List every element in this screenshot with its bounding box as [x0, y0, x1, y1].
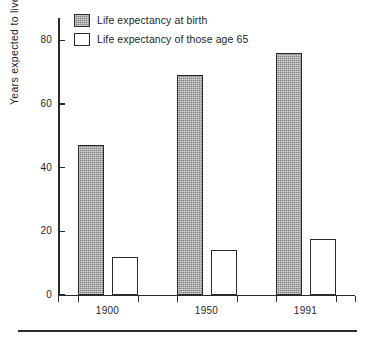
- y-axis-tick-label-0: 0: [46, 290, 52, 300]
- chart-figure: Life expectancy at birth Life expectancy…: [0, 0, 371, 342]
- x-axis-tick-label-1991: 1991: [276, 305, 336, 316]
- bar-1900-series-0: [78, 145, 104, 295]
- x-axis-tick-1900-0: [78, 296, 79, 302]
- y-axis-tick-label-20: 20: [40, 226, 52, 236]
- chart-bars: [58, 18, 355, 295]
- bar-1950-series-0: [177, 75, 203, 295]
- x-axis-edge-tick-1: [355, 296, 356, 302]
- x-axis-tick-1900-1: [138, 296, 139, 302]
- x-axis-tick-label-1900: 1900: [78, 305, 138, 316]
- bottom-rule-divider: [18, 330, 357, 332]
- bar-1991-series-0: [276, 53, 302, 295]
- y-axis-tick-label-80: 80: [40, 35, 52, 45]
- x-axis-tick-1950-1: [237, 296, 238, 302]
- x-axis-tick-1950-0: [177, 296, 178, 302]
- x-axis-tick-1991-1: [336, 296, 337, 302]
- x-axis-edge-tick-0: [58, 296, 59, 302]
- x-axis-tick-1991-0: [276, 296, 277, 302]
- y-axis-tick-label-40: 40: [40, 163, 52, 173]
- x-axis-tick-label-1950: 1950: [177, 305, 237, 316]
- bar-1950-series-1: [211, 250, 237, 295]
- y-axis-tick-label-60: 60: [40, 99, 52, 109]
- bar-1991-series-1: [310, 239, 336, 295]
- bar-1900-series-1: [112, 257, 138, 295]
- y-axis-title: Years expected to live: [8, 91, 20, 105]
